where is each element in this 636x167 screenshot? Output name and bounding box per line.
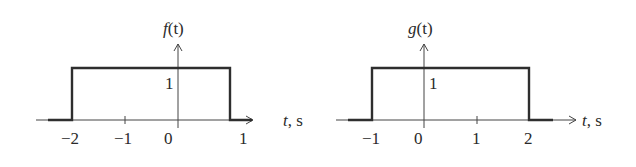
- x-tick-label: 0: [414, 129, 423, 148]
- y-tick-1: 1: [429, 74, 438, 93]
- x-tick-label: −2: [61, 129, 79, 148]
- ylabel-f: f(t): [163, 19, 184, 38]
- x-tick-label: 0: [164, 129, 173, 148]
- x-tick-label: 1: [239, 129, 248, 148]
- x-tick-label: 1: [472, 129, 481, 148]
- x-tick-label: 2: [524, 129, 533, 148]
- figure: f(t) 1 −2 −1 0 1 t, s g(t) 1 −1 0 1: [0, 0, 636, 167]
- y-tick-1: 1: [165, 74, 174, 93]
- signal-f: [48, 68, 252, 120]
- ylabel-g: g(t): [408, 19, 433, 38]
- x-tick-label: −1: [114, 129, 132, 148]
- xlabel-t: t, s: [283, 111, 303, 130]
- signal-g: [348, 68, 553, 120]
- plot-f: f(t) 1 −2 −1 0 1 t, s: [36, 19, 303, 148]
- x-tick-label: −1: [362, 129, 380, 148]
- pulse-plots: f(t) 1 −2 −1 0 1 t, s g(t) 1 −1 0 1: [0, 0, 636, 167]
- plot-g: g(t) 1 −1 0 1 2 t, s: [336, 19, 602, 148]
- xlabel-t: t, s: [582, 111, 602, 130]
